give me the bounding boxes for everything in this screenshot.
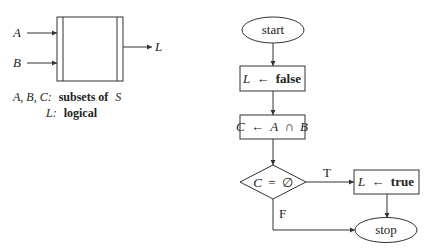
procedure-block <box>57 17 123 81</box>
decision-text: C = ∅ <box>253 175 293 190</box>
intersection-icon: ∩ <box>284 119 293 134</box>
true-branch-label: T <box>323 165 331 180</box>
assign-intersection-var: C <box>236 119 245 134</box>
legend-desc-1: subsets of <box>59 90 110 104</box>
assign-arrow-icon: ← <box>372 174 385 189</box>
stop-label: stop <box>375 222 397 237</box>
legend-desc-2: logical <box>64 106 98 120</box>
legend-line-2: L: logical <box>45 106 98 120</box>
input-label-b: B <box>13 55 21 70</box>
decision-operator: = <box>268 175 275 190</box>
legend-vars-2: L: <box>45 106 57 120</box>
start-label: start <box>262 22 285 37</box>
empty-set-icon: ∅ <box>282 175 293 190</box>
assign-true-text: L ← true <box>357 174 414 189</box>
block-diagram: A B L A, B, C: subsets of S L: logical <box>12 17 162 120</box>
intersection-right-operand: B <box>300 119 308 134</box>
legend-line-1: A, B, C: subsets of S <box>12 90 121 104</box>
false-branch-label: F <box>279 206 286 221</box>
input-label-a: A <box>12 25 21 40</box>
assign-arrow-icon: ← <box>251 119 264 134</box>
output-label-l: L <box>154 39 162 54</box>
intersection-left-operand: A <box>269 119 278 134</box>
assign-arrow-icon: ← <box>256 71 269 86</box>
decision-var: C <box>253 175 262 190</box>
assign-false-text: L ← false <box>242 71 301 86</box>
assign-true-var: L <box>357 174 365 189</box>
assign-true-value: true <box>391 174 414 189</box>
assign-false-value: false <box>276 71 302 86</box>
flowchart: start L ← false C ← A ∩ B C = ∅ T <box>236 17 419 243</box>
assign-false-var: L <box>242 71 250 86</box>
legend-vars-1: A, B, C: <box>12 90 52 104</box>
legend-set-1: S <box>115 90 121 104</box>
